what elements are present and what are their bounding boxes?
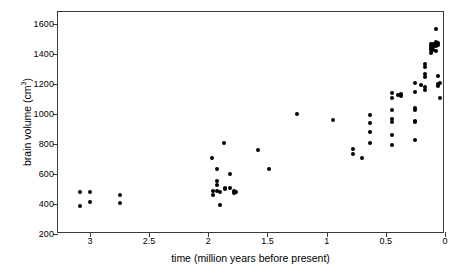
y-tick-label: 1200 — [34, 79, 54, 89]
data-point — [211, 193, 215, 197]
data-point — [413, 81, 417, 85]
data-point — [215, 167, 219, 171]
x-tick-label: 1.5 — [261, 236, 274, 246]
data-point — [436, 74, 440, 78]
data-point — [399, 94, 403, 98]
data-point — [351, 152, 355, 156]
x-tick-label: 0.5 — [380, 236, 393, 246]
data-point — [118, 201, 122, 205]
y-tick-label: 200 — [39, 229, 54, 239]
y-tick-label: 600 — [39, 169, 54, 179]
data-point — [222, 141, 226, 145]
data-point — [331, 118, 335, 122]
data-point — [423, 88, 427, 92]
data-point — [218, 203, 222, 207]
data-point — [78, 190, 82, 194]
data-point — [438, 96, 442, 100]
y-tick-label: 800 — [39, 139, 54, 149]
data-point — [256, 148, 260, 152]
data-point — [368, 130, 372, 134]
x-tick-label: 2.5 — [143, 236, 156, 246]
data-point — [423, 65, 427, 69]
data-point — [390, 91, 394, 95]
data-point — [88, 190, 92, 194]
x-tick-label: 2 — [206, 236, 211, 246]
x-axis-title: time (million years before present) — [57, 252, 444, 264]
data-point — [436, 84, 440, 88]
data-point — [267, 167, 271, 171]
data-point — [390, 120, 394, 124]
data-point — [390, 96, 394, 100]
data-point — [390, 133, 394, 137]
data-point — [368, 113, 372, 117]
data-point — [368, 121, 372, 125]
data-point — [413, 120, 417, 124]
data-point — [215, 183, 219, 187]
data-point — [390, 108, 394, 112]
data-point — [351, 147, 355, 151]
y-axis-title-tail: ) — [21, 78, 33, 82]
data-point — [390, 143, 394, 147]
x-tick-label: 1 — [324, 236, 329, 246]
y-tick-label: 400 — [39, 199, 54, 209]
data-point — [434, 49, 438, 53]
data-point — [438, 81, 442, 85]
data-point — [413, 138, 417, 142]
y-tick-label: 1600 — [34, 19, 54, 29]
y-tick-label: 1400 — [34, 49, 54, 59]
data-point — [218, 190, 222, 194]
data-point — [368, 141, 372, 145]
data-point — [228, 172, 232, 176]
plot-canvas — [58, 12, 443, 232]
data-point — [436, 43, 440, 47]
data-point — [210, 156, 214, 160]
data-point — [228, 186, 232, 190]
data-point — [234, 190, 238, 194]
plot-frame: 2004006008001000120014001600 32.521.510.… — [57, 11, 444, 233]
x-tick-label: 0 — [442, 236, 447, 246]
data-point — [434, 27, 438, 31]
y-axis-title-superscript: 3 — [20, 82, 27, 86]
brain-volume-scatter-figure: 2004006008001000120014001600 32.521.510.… — [0, 0, 465, 273]
y-tick-label: 1000 — [34, 109, 54, 119]
data-point — [413, 108, 417, 112]
y-axis-title-base: brain volume (cm — [21, 85, 33, 166]
data-point — [295, 112, 299, 116]
x-tick-label: 3 — [87, 236, 92, 246]
data-point — [360, 156, 364, 160]
data-point — [88, 200, 92, 204]
data-point — [423, 75, 427, 79]
y-axis-title: brain volume (cm3) — [20, 11, 36, 233]
data-point — [223, 187, 227, 191]
data-point — [118, 193, 122, 197]
data-point — [413, 90, 417, 94]
data-point — [78, 204, 82, 208]
